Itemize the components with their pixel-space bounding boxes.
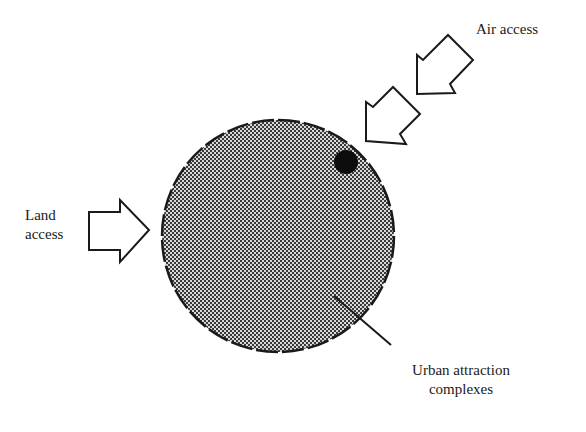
urban-attraction-label-line1: Urban attraction [386,361,536,380]
urban-attraction-label-line2: complexes [386,380,536,399]
land-access-label: Land access [25,206,63,244]
air-access-arrow-upper-icon [417,35,473,94]
attraction-dot [334,150,358,174]
air-access-label: Air access [476,20,538,39]
urban-attraction-label: Urban attraction complexes [386,361,536,399]
land-access-arrow-icon [89,200,149,262]
air-access-arrow-lower-icon [366,87,420,144]
land-access-label-line2: access [25,225,63,244]
land-access-label-line1: Land [25,206,63,225]
